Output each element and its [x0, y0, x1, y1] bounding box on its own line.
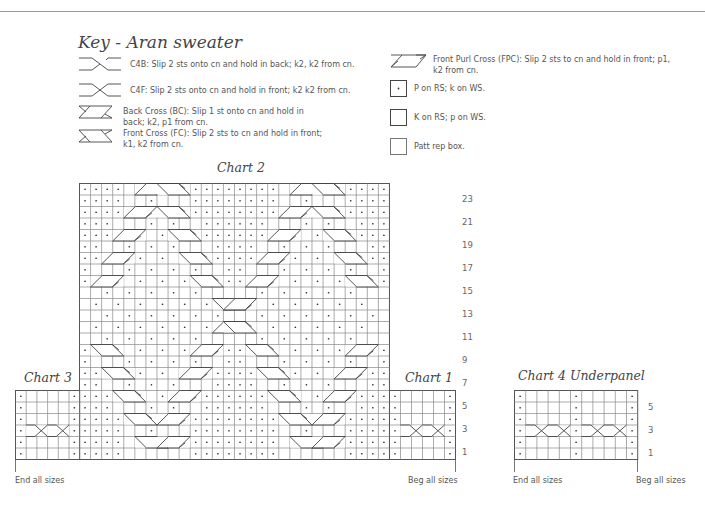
row-number: 11 [462, 332, 482, 342]
under-beg-tick [637, 460, 638, 472]
row-number: 5 [648, 402, 668, 412]
chart3-title: Chart 3 [24, 370, 72, 385]
key-item-c4f: C4F: Slip 2 sts onto cn and hold in fron… [130, 85, 350, 96]
row-number: 17 [462, 263, 482, 273]
underpanel-end-label: End all sizes [513, 476, 562, 485]
row-number: 15 [462, 286, 482, 296]
row-number: 19 [462, 240, 482, 250]
chart4-grid [514, 390, 638, 460]
row-number: 13 [462, 309, 482, 319]
chart1-grid [389, 390, 456, 460]
knit-box-icon [390, 109, 407, 126]
key-title: Key - Aran sweater [78, 32, 242, 52]
key-item-c4b: C4B: Slip 2 sts onto cn and hold in back… [130, 59, 354, 70]
patt-rep-box-icon [390, 138, 407, 155]
beg-tick [455, 460, 456, 472]
row-number: 3 [648, 425, 668, 435]
end-all-sizes-label: End all sizes [15, 476, 64, 485]
underpanel-beg-label: Beg all sizes [636, 476, 686, 485]
row-number: 5 [462, 401, 482, 411]
under-end-tick [514, 460, 515, 472]
key-item-front-cross: Front Cross (FC): Slip 2 sts to cn and h… [123, 128, 323, 150]
row-number: 1 [462, 447, 482, 457]
beg-all-sizes-label: Beg all sizes [408, 476, 458, 485]
chart3-grid [15, 390, 80, 460]
chart4-title: Chart 4 Underpanel [518, 368, 645, 383]
chart2-title: Chart 2 [217, 160, 265, 175]
c4b-icon [78, 57, 122, 71]
key-item-purl: P on RS; k on WS. [414, 83, 485, 94]
key-item-back-cross: Back Cross (BC): Slip 1 st onto cn and h… [123, 106, 323, 128]
row-number: 21 [462, 217, 482, 227]
front-purl-cross-icon [390, 54, 426, 68]
row-number: 1 [648, 448, 668, 458]
chart1-title: Chart 1 [405, 370, 453, 385]
row-number: 23 [462, 194, 482, 204]
key-item-knit: K on RS; p on WS. [414, 112, 486, 123]
row-number: 7 [462, 378, 482, 388]
row-number: 3 [462, 424, 482, 434]
c4f-icon [78, 83, 122, 97]
purl-dot-icon [390, 80, 407, 97]
key-item-front-purl-cross: Front Purl Cross (FPC): Slip 2 sts to cn… [433, 54, 673, 76]
row-number: 9 [462, 355, 482, 365]
front-cross-icon [78, 129, 114, 143]
key-item-patt-rep: Patt rep box. [414, 141, 465, 152]
top-rule [0, 11, 705, 12]
back-cross-icon [78, 105, 114, 119]
end-tick [15, 460, 16, 472]
chart2-grid [79, 183, 390, 460]
